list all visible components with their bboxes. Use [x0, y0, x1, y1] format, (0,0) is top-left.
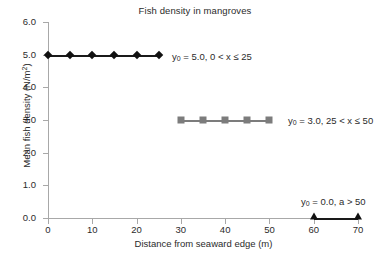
x-tick-label: 50: [256, 224, 282, 235]
x-tick-label: 30: [168, 224, 194, 235]
annotation-segment-2: y0 = 3.0, 25 < x ≤ 50: [288, 115, 373, 126]
chart-container: Fish density in mangroves 0.01.02.03.04.…: [0, 0, 390, 255]
data-point-marker: [200, 117, 207, 124]
x-tick-label: 20: [124, 224, 150, 235]
annotation-text: = 0.0, a > 50: [310, 196, 366, 207]
y-axis-title-suffix: ): [21, 63, 32, 66]
y-tick-label-wrap: 0.0: [8, 212, 41, 223]
x-tick-label: 0: [35, 224, 61, 235]
y-tick-mark: [43, 185, 48, 186]
y-axis-title-superscript: 2: [21, 67, 28, 71]
data-point-marker: [88, 50, 96, 58]
data-point-marker: [354, 213, 362, 220]
data-point-marker: [66, 50, 74, 58]
data-point-marker: [154, 50, 162, 58]
x-tick-label: 10: [79, 224, 105, 235]
data-point-marker: [110, 50, 118, 58]
chart-title: Fish density in mangroves: [0, 5, 390, 16]
y-tick-mark: [43, 22, 48, 23]
annotation-segment-1: y0 = 5.0, 0 < x ≤ 25: [172, 51, 252, 62]
data-point-marker: [177, 117, 184, 124]
data-point-marker: [310, 213, 318, 220]
y-tick-mark: [43, 120, 48, 121]
data-point-marker: [244, 117, 251, 124]
series-line: [314, 218, 358, 220]
data-point-marker: [222, 117, 229, 124]
y-axis-title: Mean fish density (N/m2): [21, 26, 32, 206]
data-point-marker: [132, 50, 140, 58]
y-axis-title-prefix: Mean fish density (N/m: [21, 70, 32, 167]
data-point-marker: [44, 50, 52, 58]
data-point-marker: [266, 117, 273, 124]
annotation-segment-3: y0 = 0.0, a > 50: [301, 196, 366, 207]
y-tick-mark: [43, 153, 48, 154]
y-tick-label: 0.0: [8, 212, 36, 223]
annotation-text: = 5.0, 0 < x ≤ 25: [181, 51, 252, 62]
series-line: [48, 55, 159, 57]
annotation-text: = 3.0, 25 < x ≤ 50: [297, 115, 374, 126]
x-axis-title: Distance from seaward edge (m): [48, 238, 359, 249]
y-tick-mark: [43, 87, 48, 88]
x-tick-label: 60: [301, 224, 327, 235]
x-tick-label: 40: [212, 224, 238, 235]
x-tick-label: 70: [345, 224, 371, 235]
